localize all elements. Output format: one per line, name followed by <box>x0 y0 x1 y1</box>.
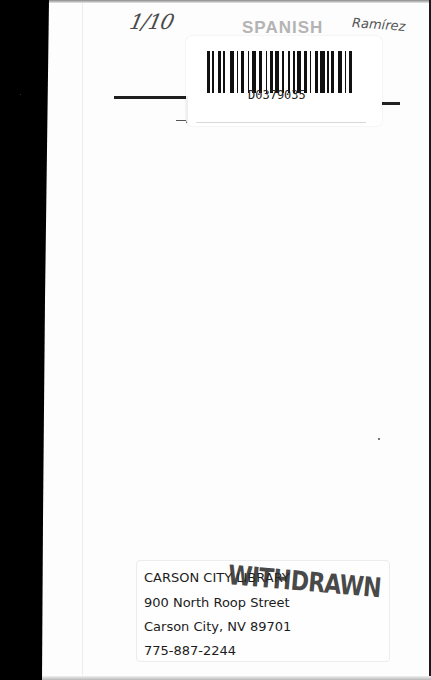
scan-speck <box>378 438 380 440</box>
sticker-edge <box>196 122 366 123</box>
barcode-number: D0379035 <box>248 88 306 102</box>
top-edge-shadow <box>49 0 430 3</box>
dash-mark <box>382 102 400 105</box>
handwritten-date: 1/10 <box>127 10 175 34</box>
bottom-edge <box>42 676 431 680</box>
scan-speck <box>20 94 21 95</box>
scanned-page: 1/10 SPANISH Ramírez D0379035 CARSON CIT… <box>0 0 431 680</box>
library-street: 900 North Roop Street <box>144 595 290 610</box>
library-city: Carson City, NV 89701 <box>144 619 291 634</box>
library-phone: 775-887-2244 <box>144 643 236 658</box>
barcode-icon <box>207 51 355 93</box>
bracket-line-horizontal <box>114 96 188 99</box>
cover-crease <box>82 3 83 675</box>
category-stamp: SPANISH <box>242 18 323 38</box>
